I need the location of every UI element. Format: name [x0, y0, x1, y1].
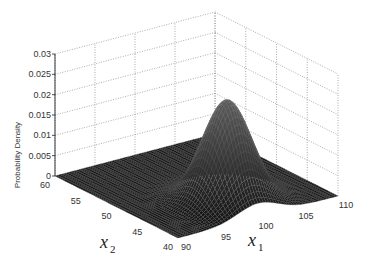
- gaussian-surface: [55, 100, 338, 238]
- svg-text:0.01: 0.01: [33, 130, 51, 140]
- svg-text:x: x: [247, 230, 256, 250]
- z-axis-label: Probability Density: [13, 122, 22, 188]
- svg-text:2: 2: [110, 243, 116, 255]
- svg-text:55: 55: [71, 196, 81, 206]
- svg-text:60: 60: [40, 180, 50, 190]
- svg-text:50: 50: [101, 211, 111, 221]
- svg-text:100: 100: [258, 221, 273, 231]
- x1-axis-label: x 1: [247, 230, 264, 253]
- svg-text:0.025: 0.025: [28, 69, 51, 79]
- surface-plot: 00.0050.010.0150.020.0250.03404550556090…: [0, 0, 368, 268]
- x2-axis-label: x 2: [99, 232, 116, 255]
- svg-text:x: x: [99, 232, 108, 252]
- svg-text:40: 40: [163, 242, 173, 252]
- svg-text:0.03: 0.03: [33, 49, 51, 59]
- svg-text:1: 1: [258, 241, 264, 253]
- svg-text:95: 95: [221, 232, 231, 242]
- svg-text:110: 110: [339, 200, 353, 210]
- svg-text:0.005: 0.005: [28, 151, 51, 161]
- svg-text:45: 45: [132, 227, 142, 237]
- svg-text:0.02: 0.02: [33, 90, 51, 100]
- svg-text:0.015: 0.015: [28, 110, 51, 120]
- svg-text:90: 90: [181, 242, 191, 252]
- svg-text:105: 105: [298, 211, 313, 221]
